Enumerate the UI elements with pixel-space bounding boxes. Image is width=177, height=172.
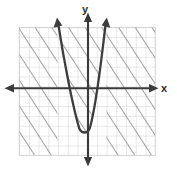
y-axis-label: y: [82, 3, 89, 15]
coordinate-graph: y x: [0, 0, 177, 172]
graph-figure: y x: [0, 0, 177, 172]
x-axis-label: x: [161, 82, 168, 94]
